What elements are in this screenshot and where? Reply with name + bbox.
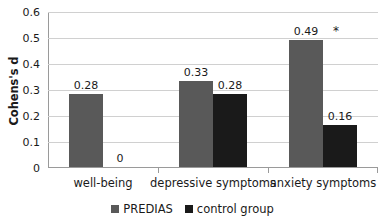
y-axis-tick-label: 0.4 bbox=[10, 58, 40, 71]
y-axis-tick-label: 0 bbox=[10, 162, 40, 175]
y-axis-tick-label: 0.5 bbox=[10, 32, 40, 45]
y-axis-tick-label: 0.2 bbox=[10, 110, 40, 123]
legend-swatch-icon bbox=[185, 205, 193, 213]
x-axis-category-label: anxiety symptoms bbox=[270, 176, 376, 190]
legend-item-control-group[interactable]: control group bbox=[185, 202, 274, 216]
y-axis-tick-label: 0.3 bbox=[10, 84, 40, 97]
legend-swatch-icon bbox=[111, 205, 119, 213]
x-axis-category-label: depressive symptoms bbox=[150, 176, 276, 190]
legend-label: control group bbox=[197, 202, 274, 216]
y-axis-tick-label: 0.1 bbox=[10, 136, 40, 149]
bar-chart: Cohens's d 00.10.20.30.40.50.6 0.2800.33… bbox=[0, 0, 385, 223]
y-axis-tick-label: 0.6 bbox=[10, 6, 40, 19]
x-axis-category-label: well-being bbox=[73, 176, 132, 190]
chart-legend: PREDIAScontrol group bbox=[0, 202, 385, 216]
x-axis-category-labels: well-beingdepressive symptomsanxiety sym… bbox=[48, 0, 378, 223]
legend-item-PREDIAS[interactable]: PREDIAS bbox=[111, 202, 173, 216]
legend-label: PREDIAS bbox=[123, 202, 173, 216]
y-axis-tick-labels: 00.10.20.30.40.50.6 bbox=[10, 0, 40, 223]
